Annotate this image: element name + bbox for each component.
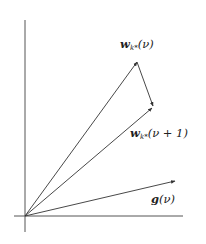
label-w-nu-plus-1-symbol: w: [130, 126, 140, 140]
vector-diagram: [0, 0, 206, 244]
label-w-nu-plus-1: wk*(ν + 1): [130, 128, 188, 141]
label-w-nu-argument: (ν): [138, 37, 154, 51]
label-w-nu-subscript: k*: [130, 44, 138, 52]
label-w-nu: wk*(ν): [120, 39, 154, 52]
vector-w-nu-plus-1: [25, 108, 152, 216]
vector-delta: [137, 62, 153, 106]
label-w-nu-plus-1-subscript: k*: [140, 133, 148, 141]
vector-w-nu: [25, 62, 137, 216]
label-g-nu-symbol: g: [151, 192, 159, 206]
label-g-nu: g(ν): [151, 194, 175, 206]
label-w-nu-symbol: w: [120, 37, 130, 51]
label-w-nu-plus-1-argument: (ν + 1): [148, 126, 188, 140]
label-g-nu-argument: (ν): [159, 192, 175, 206]
